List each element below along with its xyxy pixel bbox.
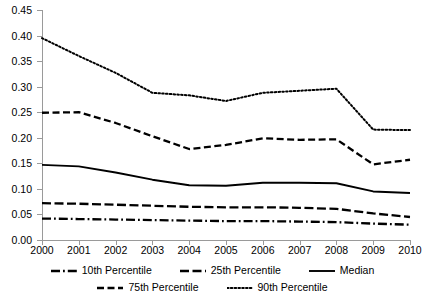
series-line-75th-percentile <box>42 112 410 164</box>
legend-row-bottom: 75th Percentile90th Percentile <box>0 279 425 296</box>
legend-item-label: 25th Percentile <box>211 265 281 276</box>
legend-item-25th-percentile[interactable]: 25th Percentile <box>180 265 281 276</box>
series-line-median <box>42 165 410 193</box>
series-line-10th-percentile <box>42 219 410 225</box>
chart-legend: 10th Percentile25th PercentileMedian 75t… <box>0 262 425 302</box>
legend-line-swatch <box>227 283 253 293</box>
legend-row-top: 10th Percentile25th PercentileMedian <box>0 262 425 279</box>
chart-series-layer <box>0 0 425 302</box>
legend-item-10th-percentile[interactable]: 10th Percentile <box>51 265 152 276</box>
legend-line-swatch <box>180 266 206 276</box>
legend-item-75th-percentile[interactable]: 75th Percentile <box>97 282 198 293</box>
series-line-25th-percentile <box>42 203 410 217</box>
legend-item-label: 90th Percentile <box>258 282 328 293</box>
legend-item-label: Median <box>340 265 374 276</box>
legend-line-swatch <box>97 283 123 293</box>
legend-line-swatch <box>51 266 77 276</box>
legend-item-median[interactable]: Median <box>309 265 374 276</box>
legend-item-label: 75th Percentile <box>128 282 198 293</box>
legend-line-swatch <box>309 266 335 276</box>
legend-item-90th-percentile[interactable]: 90th Percentile <box>227 282 328 293</box>
legend-item-label: 10th Percentile <box>82 265 152 276</box>
chart-container: 0.000.050.100.150.200.250.300.350.400.45… <box>0 0 425 302</box>
series-line-90th-percentile <box>42 38 410 130</box>
